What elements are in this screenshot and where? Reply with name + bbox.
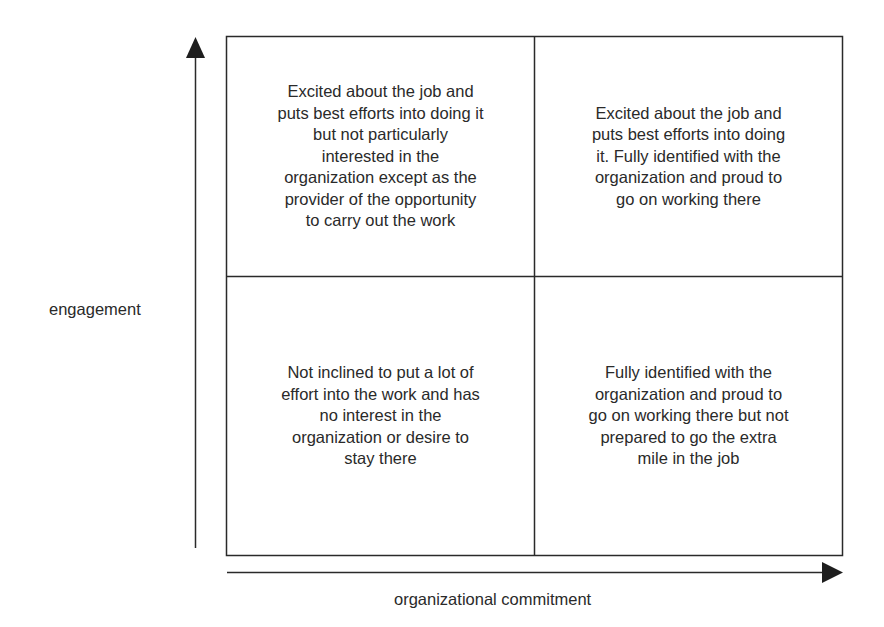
quadrant-line: it. Fully identified with the xyxy=(592,146,785,168)
quadrant-line: go on working there xyxy=(592,189,785,211)
quadrant-line: organization and proud to xyxy=(592,167,785,189)
quadrant-bottom-right: Fully identified with the organization a… xyxy=(535,277,842,555)
quadrant-line: no interest in the xyxy=(281,405,480,427)
quadrant-line: Excited about the job and xyxy=(592,103,785,125)
arrow-right-icon xyxy=(822,562,843,583)
x-axis-label: organizational commitment xyxy=(394,590,591,609)
quadrant-line: Not inclined to put a lot of xyxy=(281,362,480,384)
quadrant-line: organization except as the xyxy=(277,167,483,189)
quadrant-line: to carry out the work xyxy=(277,210,483,232)
quadrant-line: organization and proud to xyxy=(589,384,789,406)
quadrant-line: provider of the opportunity xyxy=(277,189,483,211)
quadrant-line: puts best efforts into doing it xyxy=(277,103,483,125)
quadrant-line: effort into the work and has xyxy=(281,384,480,406)
quadrant-line: prepared to go the extra xyxy=(589,427,789,449)
y-axis-label: engagement xyxy=(49,300,141,319)
quadrant-line: Fully identified with the xyxy=(589,362,789,384)
quadrant-line: Excited about the job and xyxy=(277,81,483,103)
quadrant-line: stay there xyxy=(281,448,480,470)
quadrant-line: go on working there but not xyxy=(589,405,789,427)
quadrant-top-left: Excited about the job and puts best effo… xyxy=(227,37,534,276)
quadrant-top-right: Excited about the job and puts best effo… xyxy=(535,37,842,276)
quadrant-text: Excited about the job and puts best effo… xyxy=(592,103,785,211)
quadrant-line: but not particularly xyxy=(277,124,483,146)
quadrant-text: Excited about the job and puts best effo… xyxy=(277,81,483,232)
arrow-up-icon xyxy=(186,37,205,58)
quadrant-line: interested in the xyxy=(277,146,483,168)
quadrant-text: Fully identified with the organization a… xyxy=(589,362,789,470)
quadrant-line: organization or desire to xyxy=(281,427,480,449)
quadrant-line: puts best efforts into doing xyxy=(592,124,785,146)
quadrant-text: Not inclined to put a lot of effort into… xyxy=(281,362,480,470)
engagement-commitment-matrix: Excited about the job and puts best effo… xyxy=(0,0,884,627)
quadrant-bottom-left: Not inclined to put a lot of effort into… xyxy=(227,277,534,555)
quadrant-line: mile in the job xyxy=(589,448,789,470)
